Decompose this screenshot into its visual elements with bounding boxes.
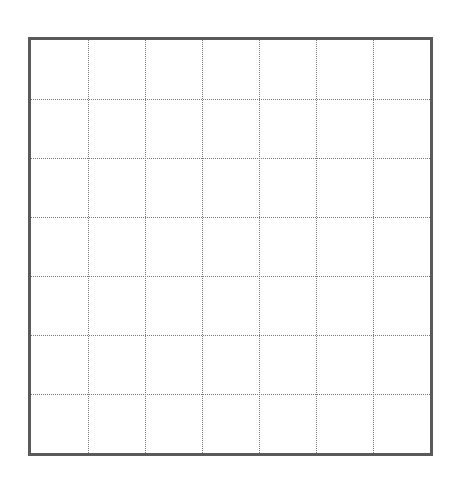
grid-cell[interactable] xyxy=(31,217,88,276)
grid-cell[interactable] xyxy=(316,394,373,453)
grid-cell[interactable] xyxy=(88,99,145,158)
grid-divider-vertical xyxy=(373,40,374,453)
grid-cell[interactable] xyxy=(145,217,202,276)
grid-divider-horizontal xyxy=(31,394,430,395)
grid-cell[interactable] xyxy=(259,40,316,99)
grid-cell[interactable] xyxy=(145,335,202,394)
grid-cell[interactable] xyxy=(31,335,88,394)
grid-cell[interactable] xyxy=(202,335,259,394)
grid-cell[interactable] xyxy=(202,158,259,217)
grid-divider-horizontal xyxy=(31,276,430,277)
grid-divider-horizontal xyxy=(31,99,430,100)
grid-cell[interactable] xyxy=(259,217,316,276)
grid-cell[interactable] xyxy=(373,158,430,217)
grid-cell[interactable] xyxy=(88,40,145,99)
grid-cell[interactable] xyxy=(316,217,373,276)
grid-cell[interactable] xyxy=(145,40,202,99)
grid-divider-vertical xyxy=(202,40,203,453)
grid-cell[interactable] xyxy=(31,99,88,158)
grid-cell[interactable] xyxy=(259,158,316,217)
grid-cell[interactable] xyxy=(145,276,202,335)
grid-cell[interactable] xyxy=(373,335,430,394)
grid-cell[interactable] xyxy=(259,276,316,335)
grid-cell[interactable] xyxy=(202,276,259,335)
grid-cell[interactable] xyxy=(373,99,430,158)
grid-cell[interactable] xyxy=(145,158,202,217)
grid-divider-horizontal xyxy=(31,217,430,218)
grid-cell[interactable] xyxy=(31,158,88,217)
grid-cell[interactable] xyxy=(259,335,316,394)
grid-cell[interactable] xyxy=(373,394,430,453)
grid-divider-vertical xyxy=(316,40,317,453)
grid-cell[interactable] xyxy=(316,99,373,158)
grid-cell[interactable] xyxy=(31,394,88,453)
grid-cell[interactable] xyxy=(202,394,259,453)
grid-cell[interactable] xyxy=(259,394,316,453)
grid-cell[interactable] xyxy=(31,276,88,335)
grid-cell[interactable] xyxy=(202,40,259,99)
grid-cell[interactable] xyxy=(373,217,430,276)
grid-cell[interactable] xyxy=(88,335,145,394)
grid-cell[interactable] xyxy=(316,40,373,99)
grid-cell[interactable] xyxy=(202,99,259,158)
grid-cell[interactable] xyxy=(88,394,145,453)
grid-cell[interactable] xyxy=(88,276,145,335)
grid-cell[interactable] xyxy=(202,217,259,276)
grid-cell[interactable] xyxy=(316,276,373,335)
grid-cell[interactable] xyxy=(145,394,202,453)
grid-cell[interactable] xyxy=(316,158,373,217)
grid-cell[interactable] xyxy=(373,276,430,335)
grid-divider-horizontal xyxy=(31,158,430,159)
grid-cell[interactable] xyxy=(316,335,373,394)
grid-cell[interactable] xyxy=(259,99,316,158)
grid-divider-vertical xyxy=(88,40,89,453)
grid-cell[interactable] xyxy=(88,158,145,217)
grid-cell[interactable] xyxy=(145,99,202,158)
grid-divider-vertical xyxy=(145,40,146,453)
grid-cell[interactable] xyxy=(31,40,88,99)
grid-cell[interactable] xyxy=(373,40,430,99)
grid-divider-vertical xyxy=(259,40,260,453)
grid-cell[interactable] xyxy=(88,217,145,276)
grid-divider-horizontal xyxy=(31,335,430,336)
grid-board xyxy=(28,37,433,456)
